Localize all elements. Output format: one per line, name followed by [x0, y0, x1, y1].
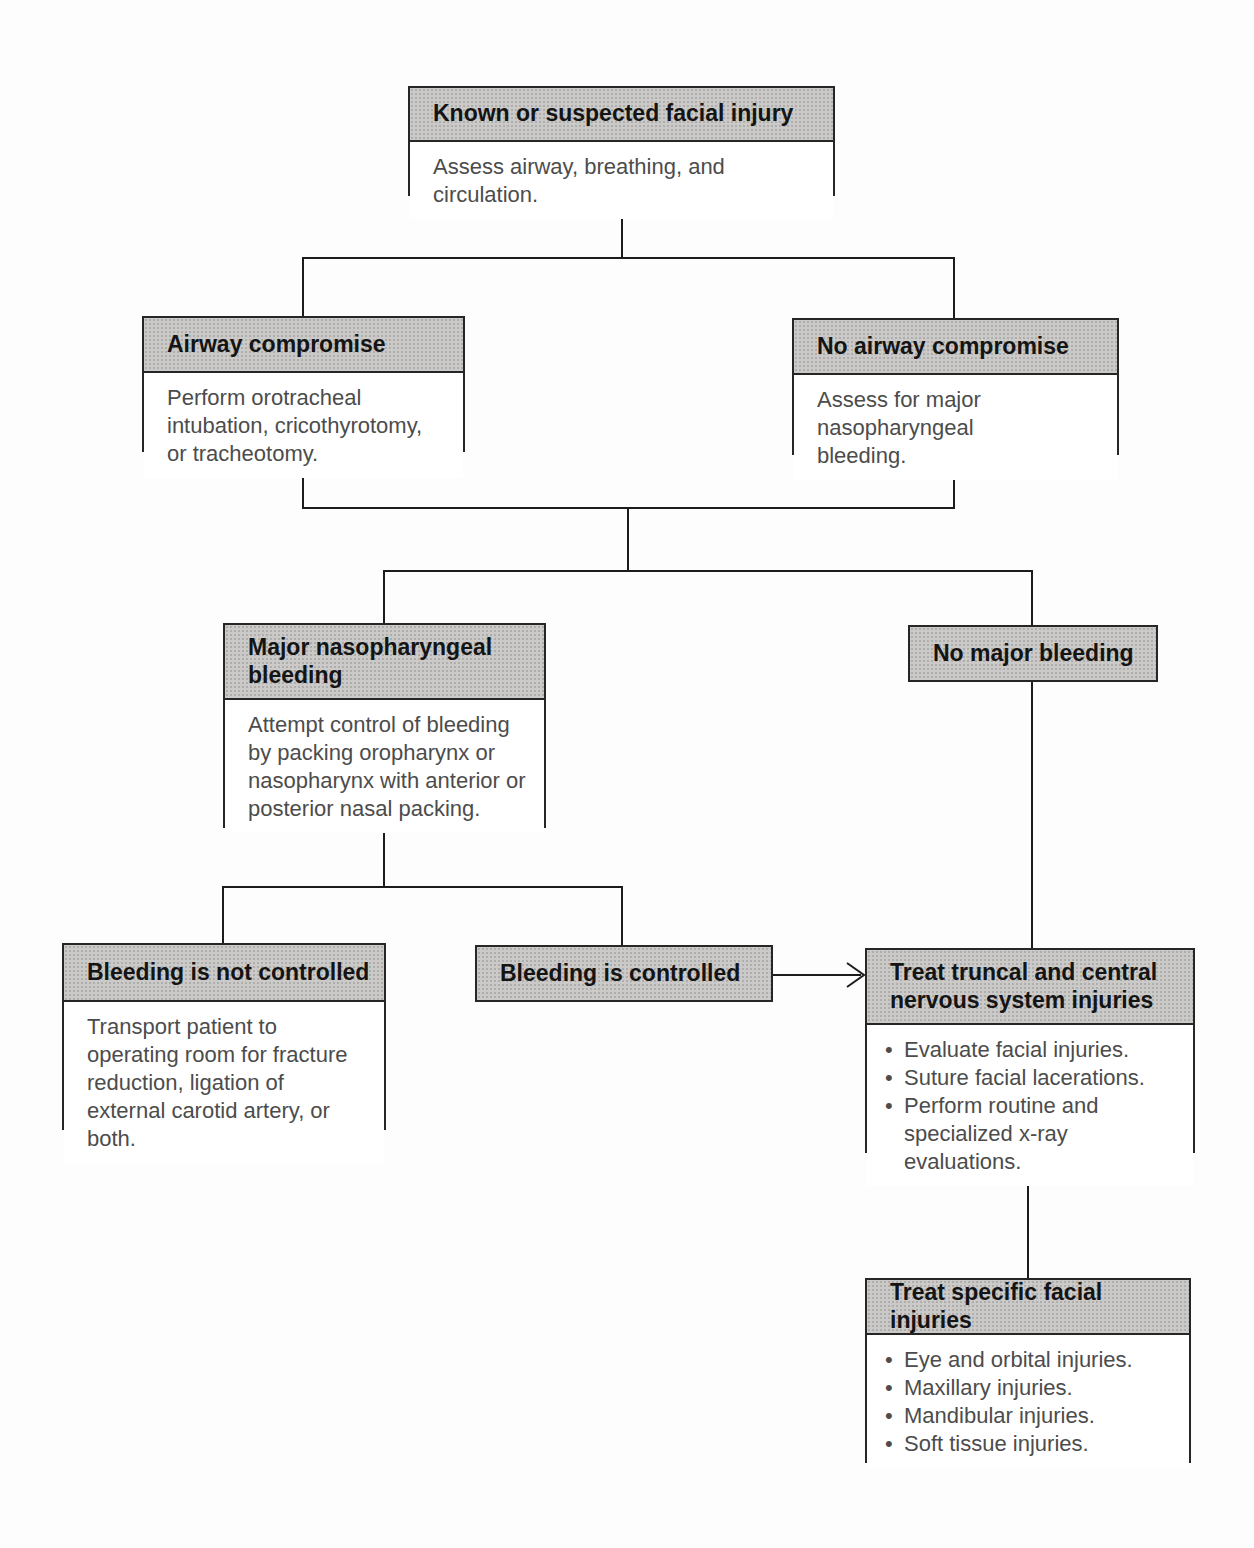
node-bleeding-is-controlled: Bleeding is controlled [475, 945, 773, 1002]
node-title-text: Known or suspected facial injury [433, 100, 793, 127]
node-title: Major nasopharyngeal bleeding [225, 625, 544, 698]
bullet-item: Soft tissue injuries. [885, 1430, 1173, 1458]
node-title: Known or suspected facial injury [410, 88, 833, 140]
node-title-text: No major bleeding [933, 640, 1134, 667]
node-body-text: Perform orotracheal intubation, cricothy… [144, 371, 463, 478]
node-treat-truncal-cns-injuries: Treat truncal and central nervous system… [865, 948, 1195, 1153]
arrowhead-right-icon [847, 963, 864, 987]
node-body-text: Assess for major nasopharyngeal bleeding… [794, 373, 1117, 480]
node-title: No airway compromise [794, 320, 1117, 373]
node-known-or-suspected-facial-injury: Known or suspected facial injury Assess … [408, 86, 835, 196]
node-no-major-bleeding: No major bleeding [908, 625, 1158, 682]
node-title: Airway compromise [144, 318, 463, 371]
bullet-item: Evaluate facial injuries. [885, 1036, 1177, 1064]
node-body-bullets: Eye and orbital injuries. Maxillary inju… [867, 1333, 1189, 1468]
node-body-text: Attempt control of bleeding by packing o… [225, 698, 544, 833]
node-title: Bleeding is not controlled [64, 945, 384, 1000]
node-body-text: Transport patient to operating room for … [64, 1000, 384, 1163]
node-title-text: No airway compromise [817, 333, 1069, 360]
node-title-text: Treat specific facial injuries [890, 1279, 1175, 1333]
node-title: Treat truncal and central nervous system… [867, 950, 1193, 1023]
bullet-item: Mandibular injuries. [885, 1402, 1173, 1430]
node-bleeding-is-not-controlled: Bleeding is not controlled Transport pat… [62, 943, 386, 1130]
node-no-airway-compromise: No airway compromise Assess for major na… [792, 318, 1119, 455]
bullet-item: Maxillary injuries. [885, 1374, 1173, 1402]
node-title-text: Airway compromise [167, 331, 386, 358]
flowchart-canvas: Known or suspected facial injury Assess … [0, 0, 1254, 1548]
node-body-bullets: Evaluate facial injuries. Suture facial … [867, 1023, 1193, 1186]
bullet-item: Suture facial lacerations. [885, 1064, 1177, 1092]
connector-split-bleeding [384, 571, 1032, 625]
connector-split-airway [303, 258, 954, 318]
node-title-text: Major nasopharyngeal bleeding [248, 634, 530, 688]
node-title-text: Bleeding is not controlled [87, 959, 369, 986]
bullet-list: Evaluate facial injuries. Suture facial … [885, 1036, 1177, 1176]
bullet-list: Eye and orbital injuries. Maxillary inju… [885, 1346, 1173, 1458]
node-title: Bleeding is controlled [477, 947, 771, 1000]
bullet-item: Perform routine and specialized x-ray ev… [885, 1092, 1177, 1176]
node-title-text: Treat truncal and central nervous system… [890, 959, 1179, 1013]
node-title-text: Bleeding is controlled [500, 960, 740, 987]
node-airway-compromise: Airway compromise Perform orotracheal in… [142, 316, 465, 452]
node-body-text: Assess airway, breathing, and circulatio… [410, 140, 833, 219]
bullet-item: Eye and orbital injuries. [885, 1346, 1173, 1374]
connector-split-control [223, 887, 622, 945]
node-title: No major bleeding [910, 627, 1156, 680]
node-title: Treat specific facial injuries [867, 1280, 1189, 1333]
node-major-nasopharyngeal-bleeding: Major nasopharyngeal bleeding Attempt co… [223, 623, 546, 828]
node-treat-specific-facial-injuries: Treat specific facial injuries Eye and o… [865, 1278, 1191, 1463]
